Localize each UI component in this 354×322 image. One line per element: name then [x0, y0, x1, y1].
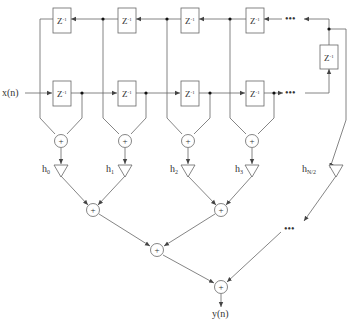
svg-text:+: + — [249, 136, 254, 146]
coef-label-h0: h0 — [42, 163, 50, 175]
svg-text:+: + — [185, 136, 190, 146]
multiplier-hN2 — [329, 165, 343, 177]
svg-text:+: + — [90, 205, 95, 215]
multiplier-h3 — [245, 165, 259, 177]
coef-label-h3: h3 — [235, 163, 243, 175]
svg-text:+: + — [218, 282, 223, 292]
output-label: y(n) — [212, 308, 229, 320]
coef-label-h2: h2 — [170, 163, 178, 175]
svg-text:+: + — [122, 136, 127, 146]
coef-label-hN2: hN/2 — [302, 163, 316, 175]
adders — [55, 135, 259, 294]
multipliers — [54, 165, 343, 177]
ellipsis-top: ••• — [285, 13, 296, 24]
svg-text:+: + — [218, 205, 223, 215]
multiplier-h1 — [118, 165, 132, 177]
ellipsis-bottom: ••• — [285, 87, 296, 98]
input-label: x(n) — [2, 87, 19, 99]
ellipsis-sum: ••• — [284, 223, 295, 234]
svg-text:+: + — [154, 245, 159, 255]
fir-filter-diagram: Z-1 Z-1 Z-1 Z-1 Z-1 Z-1 Z-1 Z-1 Z-1 ••• … — [0, 0, 354, 322]
multiplier-h2 — [181, 165, 195, 177]
coef-label-h1: h1 — [106, 163, 114, 175]
multiplier-h0 — [54, 165, 68, 177]
svg-text:+: + — [58, 136, 63, 146]
